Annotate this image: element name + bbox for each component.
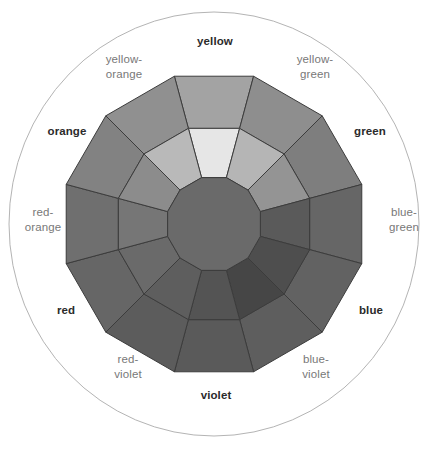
wheel-label-green: green xyxy=(340,124,400,139)
wheel-label-yellow: yellow xyxy=(176,34,254,49)
wheel-label-red-orange: red- orange xyxy=(12,205,74,234)
color-wheel-figure: yellowyellow- greengreenblue- greenblueb… xyxy=(0,0,434,452)
wheel-label-yellow-green: yellow- green xyxy=(280,52,350,81)
wheel-label-blue-violet: blue- violet xyxy=(286,352,346,381)
wheel-label-yellow-orange: yellow- orange xyxy=(88,52,160,81)
wheel-label-orange: orange xyxy=(36,124,98,139)
wheel-label-blue: blue xyxy=(346,303,396,318)
wheel-label-red: red xyxy=(42,303,90,318)
wheel-label-red-violet: red- violet xyxy=(98,352,158,381)
wheel-label-violet: violet xyxy=(186,388,246,403)
wheel-label-blue-green: blue- green xyxy=(376,205,432,234)
wheel-core-polygon xyxy=(168,178,261,271)
